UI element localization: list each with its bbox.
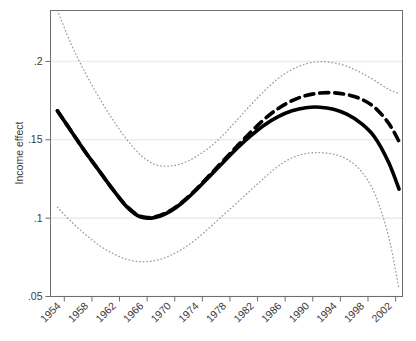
y-tick-label: .2	[34, 55, 43, 67]
y-tick-label: .05	[28, 290, 43, 302]
y-tick-label: .1	[34, 212, 43, 224]
chart-background	[0, 0, 416, 341]
chart-figure: .05.1.15.2 19541958196219661970197419781…	[0, 0, 416, 341]
income-effect-line-chart: .05.1.15.2 19541958196219661970197419781…	[0, 0, 416, 341]
y-axis-title: Income effect	[13, 121, 25, 184]
y-tick-label: .15	[28, 133, 43, 145]
